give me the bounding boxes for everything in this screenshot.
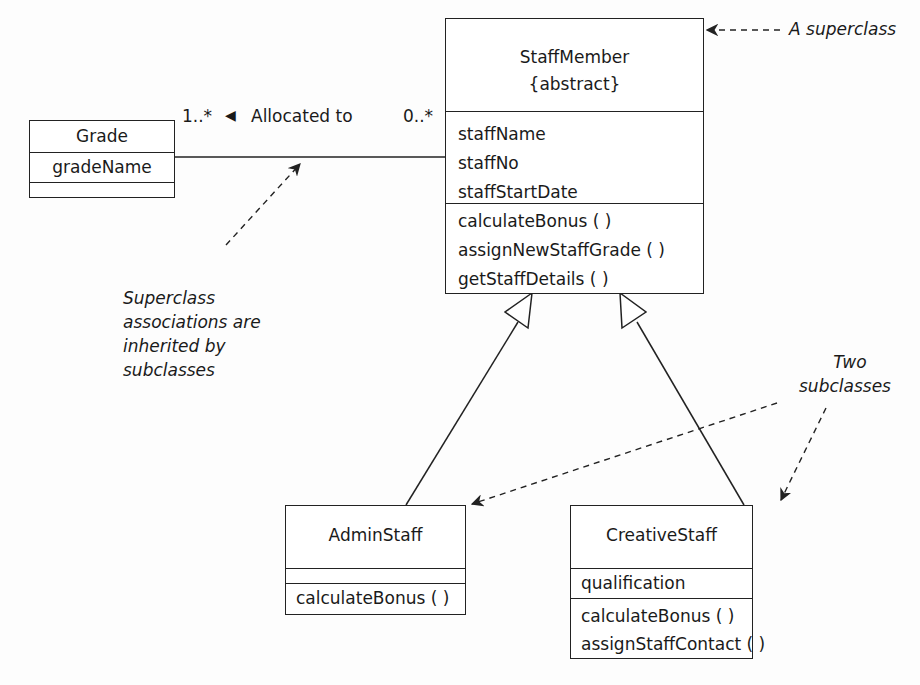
operation: assignNewStaffGrade ( ) <box>446 236 703 265</box>
annotation-inherited: Superclass associations are inherited by… <box>123 286 261 382</box>
operation: assignStaffContact ( ) <box>571 630 752 658</box>
class-name: AdminStaff <box>286 525 465 545</box>
association-name: Allocated to <box>251 106 353 126</box>
class-name: StaffMember <box>446 42 703 72</box>
annotation-line: associations are <box>123 310 261 334</box>
attributes-compartment <box>286 568 465 583</box>
multiplicity-staff: 0..* <box>403 106 433 126</box>
pointer-admin <box>472 403 777 504</box>
pointer-creative <box>781 408 826 500</box>
annotation-line: subclasses <box>123 358 261 382</box>
annotation-superclass: A superclass <box>789 17 896 41</box>
attribute: qualification <box>571 572 752 594</box>
pointer-inherited <box>226 164 300 245</box>
operation: calculateBonus ( ) <box>446 207 703 236</box>
uml-class-diagram: Grade gradeName StaffMember {abstract} s… <box>0 0 920 685</box>
annotation-line: inherited by <box>123 334 261 358</box>
class-staff-member: StaffMember {abstract} staffName staffNo… <box>445 18 704 294</box>
attribute: staffNo <box>446 149 703 178</box>
operation: calculateBonus ( ) <box>286 587 465 609</box>
annotation-line: subclasses <box>790 374 900 398</box>
association-direction-icon: ◀ <box>225 107 236 123</box>
class-name: Grade <box>30 126 174 146</box>
class-name: CreativeStaff <box>571 525 752 545</box>
attribute: gradeName <box>30 157 174 177</box>
attribute: staffName <box>446 120 703 149</box>
class-stereotype: {abstract} <box>446 72 703 96</box>
generalization-admin <box>406 293 532 505</box>
class-creative-staff: CreativeStaff qualification calculateBon… <box>570 505 753 659</box>
operations-compartment <box>30 182 174 197</box>
annotation-subclasses: Two subclasses <box>790 350 900 398</box>
multiplicity-grade: 1..* <box>182 106 212 126</box>
operation: getStaffDetails ( ) <box>446 265 703 294</box>
generalization-creative <box>620 293 744 505</box>
operation: calculateBonus ( ) <box>571 602 752 630</box>
class-grade: Grade gradeName <box>29 120 175 198</box>
class-admin-staff: AdminStaff calculateBonus ( ) <box>285 505 466 615</box>
annotation-line: Superclass <box>123 286 261 310</box>
annotation-line: Two <box>790 350 900 374</box>
